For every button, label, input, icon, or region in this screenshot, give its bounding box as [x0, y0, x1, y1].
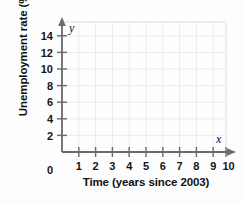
y-tick-label-8: 8	[47, 80, 53, 92]
x-axis-arrow-icon	[227, 148, 236, 156]
y-tick-label-10: 10	[41, 63, 53, 75]
x-axis-variable-label: x	[215, 132, 222, 146]
x-tick-label-5: 5	[143, 160, 149, 172]
x-tick-label-7: 7	[177, 160, 183, 172]
y-axis	[58, 17, 66, 152]
x-tick-label-6: 6	[160, 160, 166, 172]
y-axis-variable-label: y	[68, 21, 75, 35]
grid-vertical-lines	[62, 22, 226, 152]
coordinate-plane: 0 2 4 6 8 10 12 14 1 2 3 4 5 6 7 8 9 10 …	[0, 0, 243, 205]
y-tick-label-6: 6	[47, 96, 53, 108]
x-axis	[62, 148, 236, 156]
x-tick-label-2: 2	[93, 160, 99, 172]
y-tick-labels: 0 2 4 6 8 10 12 14	[41, 30, 54, 176]
x-tick-label-3: 3	[109, 160, 115, 172]
x-tick-label-1: 1	[76, 160, 82, 172]
y-tick-label-12: 12	[41, 47, 53, 59]
x-tick-label-9: 9	[210, 160, 216, 172]
y-tick-label-2: 2	[47, 130, 53, 142]
y-tick-label-4: 4	[47, 113, 54, 125]
x-tick-label-4: 4	[126, 160, 133, 172]
x-tick-label-10: 10	[222, 160, 234, 172]
grid-border	[62, 22, 226, 152]
x-tick-label-8: 8	[193, 160, 199, 172]
grid-horizontal-lines	[62, 22, 226, 152]
x-tick-labels: 1 2 3 4 5 6 7 8 9 10	[76, 160, 235, 172]
y-tick-label-0: 0	[47, 164, 53, 176]
graph-figure: Unemployment rate (%) Time (years since …	[0, 0, 243, 205]
y-tick-label-14: 14	[41, 30, 54, 42]
